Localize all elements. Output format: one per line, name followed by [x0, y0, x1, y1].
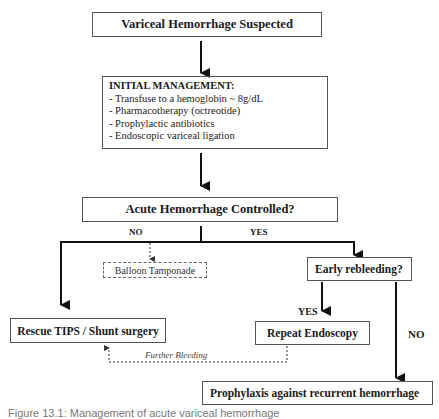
list-item: - Prophylactic antibiotics [109, 118, 321, 131]
initial-management-heading: INITIAL MANAGEMENT: [109, 80, 321, 93]
start-node-label: Variceal Hemorrhage Suspected [121, 17, 293, 32]
repeat-endoscopy-label: Repeat Endoscopy [267, 327, 358, 339]
rescue-tips-label: Rescue TIPS / Shunt surgery [17, 325, 159, 337]
list-item: - Pharmacotherapy (octreotide) [109, 105, 321, 118]
yes-branch-label: YES [250, 227, 268, 237]
early-rebleeding-node: Early rebleeding? [307, 257, 412, 281]
initial-management-node: INITIAL MANAGEMENT: - Transfuse to a hem… [102, 76, 328, 149]
prophylaxis-node: Prophylaxis against recurrent hemorrhage [202, 381, 433, 405]
list-item: - Endoscopic variceal ligation [109, 130, 321, 143]
rebleed-no-label: NO [408, 328, 425, 340]
initial-management-list: - Transfuse to a hemoglobin ~ 8g/dL - Ph… [109, 93, 321, 143]
rebleed-yes-label: YES [298, 306, 317, 317]
decision-controlled-node: Acute Hemorrhage Controlled? [82, 197, 338, 222]
decision-controlled-label: Acute Hemorrhage Controlled? [125, 202, 294, 217]
repeat-endoscopy-node: Repeat Endoscopy [255, 321, 370, 345]
start-node: Variceal Hemorrhage Suspected [92, 12, 322, 37]
balloon-tamponade-label: Balloon Tamponade [115, 265, 196, 276]
rescue-tips-node: Rescue TIPS / Shunt surgery [10, 318, 166, 343]
early-rebleeding-label: Early rebleeding? [315, 263, 403, 275]
prophylaxis-label: Prophylaxis against recurrent hemorrhage [210, 387, 419, 399]
no-branch-label: NO [129, 227, 143, 237]
figure-caption: Figure 13.1: Management of acute varicea… [8, 407, 280, 419]
balloon-tamponade-node: Balloon Tamponade [103, 262, 207, 278]
list-item: - Transfuse to a hemoglobin ~ 8g/dL [109, 93, 321, 106]
further-bleeding-label: Further Bleeding [145, 350, 207, 360]
